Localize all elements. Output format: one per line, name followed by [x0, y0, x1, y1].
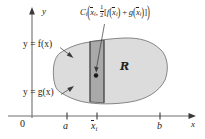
centroid-comma: , — [96, 7, 98, 17]
term2-paren-close: ) — [141, 6, 144, 18]
y-axis-arrow — [29, 7, 35, 15]
tick-label-xbar: xi — [91, 121, 97, 133]
figure-graphic — [0, 0, 205, 139]
region-label: R — [120, 61, 129, 72]
centroid-label: Ci(xi, 12[f(xi) + g(xi)]) — [80, 4, 150, 18]
term1-arg-group: x — [112, 8, 116, 17]
xbar-overbar-group: x — [91, 121, 95, 131]
figure-canvas: y x 0 y = f(x) y = g(x) R a xi b Ci(xi, … — [0, 0, 205, 139]
origin-label: 0 — [20, 119, 25, 129]
xbar-base: x — [91, 120, 95, 131]
tick-label-a: a — [63, 121, 68, 131]
centroid-arg1-base: x — [90, 7, 94, 17]
region-shape — [53, 38, 167, 104]
lower-curve-label: y = g(x) — [23, 88, 54, 98]
xbar-subscript: i — [95, 125, 97, 132]
term2-arg-group: x — [136, 8, 140, 17]
plus-sign: + — [122, 7, 127, 17]
centroid-paren-close: ) — [147, 4, 150, 20]
upper-curve-label: y = f(x) — [23, 40, 52, 50]
term1-base: x — [112, 7, 116, 17]
x-axis-label: x — [191, 120, 195, 129]
tick-label-b: b — [157, 121, 162, 131]
term2-base: x — [136, 7, 140, 17]
y-axis-label: y — [42, 7, 46, 16]
representative-strip — [90, 40, 104, 103]
term1-paren-close: ) — [118, 6, 121, 18]
centroid-point — [94, 73, 98, 77]
centroid-arg1-group: x — [90, 8, 94, 17]
